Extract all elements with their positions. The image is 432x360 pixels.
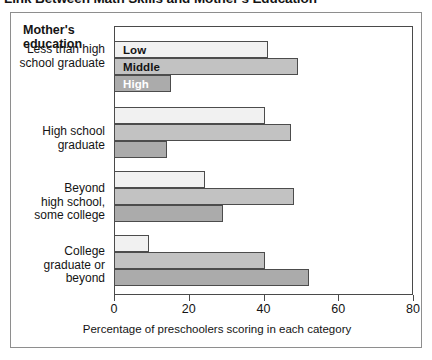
category-label-line: beyond	[9, 272, 105, 286]
x-tick-label: 20	[182, 302, 196, 316]
x-tick-label: 40	[257, 302, 271, 316]
bar-group-less-than-high-school: Low Middle High	[115, 41, 412, 104]
category-label-line: Beyond	[9, 182, 105, 196]
chart-frame: Mother's education Less than high school…	[10, 12, 422, 348]
legend-label-high: High	[115, 78, 149, 90]
x-tick-label: 0	[111, 302, 118, 316]
x-tick-label: 80	[406, 302, 420, 316]
category-label-line: high school,	[9, 196, 105, 210]
x-tick-mark	[264, 295, 265, 301]
bar-group-high-school-graduate	[115, 107, 412, 170]
x-tick-mark	[114, 295, 115, 301]
category-label-college-graduate: College graduate or beyond	[9, 245, 105, 286]
bar-high: High	[114, 75, 171, 92]
bar-low: Low	[114, 41, 268, 58]
bar-high	[114, 141, 167, 158]
category-label-less-than-high-school: Less than high school graduate	[9, 43, 105, 70]
plot-area: Low Middle High	[114, 26, 413, 295]
category-label-high-school-graduate: High school graduate	[9, 125, 105, 152]
x-tick-mark	[189, 295, 190, 301]
category-label-line: College	[9, 245, 105, 259]
category-label-line: graduate	[9, 139, 105, 153]
category-label-line: graduate or	[9, 259, 105, 273]
legend-label-middle: Middle	[115, 61, 160, 73]
bar-middle	[114, 188, 294, 205]
category-label-line: some college	[9, 209, 105, 223]
bar-middle	[114, 252, 265, 269]
x-tick-label: 60	[331, 302, 345, 316]
x-tick-mark	[338, 295, 339, 301]
bar-low	[114, 171, 205, 188]
bar-middle: Middle	[114, 58, 298, 75]
legend-title-line-1: Mother's	[23, 23, 115, 37]
bar-low	[114, 235, 149, 252]
bar-high	[114, 205, 223, 222]
bar-low	[114, 107, 265, 124]
bar-group-college-graduate	[115, 235, 412, 298]
figure-title: Link Between Math Skills and Mother's Ed…	[4, 0, 428, 9]
bar-high	[114, 269, 309, 286]
category-label-line: school graduate	[9, 57, 105, 71]
category-label-line: High school	[9, 125, 105, 139]
bar-middle	[114, 124, 291, 141]
x-axis-title: Percentage of preschoolers scoring in ea…	[11, 323, 423, 335]
category-label-line: Less than high	[9, 43, 105, 57]
bar-group-beyond-high-school	[115, 171, 412, 234]
x-tick-mark	[413, 295, 414, 301]
category-label-beyond-high-school: Beyond high school, some college	[9, 182, 105, 223]
legend-label-low: Low	[115, 44, 146, 56]
